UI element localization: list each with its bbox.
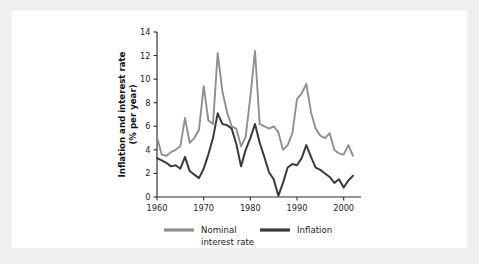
line-chart: 02468101214 19601970198019902000 Inflati… [12,11,467,248]
x-tick-label: 1980 [240,203,261,213]
y-tick-label: 2 [145,168,150,178]
x-tick-label: 1990 [287,203,308,213]
y-tick-label: 6 [145,121,150,131]
x-axis-ticks: 19601970198019902000 [147,197,355,213]
y-axis-title-line2: (% per year) [128,84,138,144]
x-tick-label: 2000 [333,203,354,213]
y-tick-label: 10 [140,74,150,84]
series-group [157,51,353,196]
figure-root: 02468101214 19601970198019902000 Inflati… [0,0,479,264]
x-tick-label: 1960 [147,203,168,213]
chart-svg: 02468101214 19601970198019902000 Inflati… [12,11,467,248]
y-tick-label: 8 [145,98,150,108]
y-tick-label: 0 [145,192,150,202]
legend-label-2: Inflation [297,225,332,235]
x-tick-label: 1970 [193,203,214,213]
y-tick-label: 12 [140,51,150,61]
figure-panel: 02468101214 19601970198019902000 Inflati… [12,11,467,248]
y-axis-title-line1: Inflation and interest rate [117,51,127,177]
series-line-nominal-interest-rate [157,51,353,156]
y-axis-title: Inflation and interest rate (% per year) [117,51,138,177]
legend-label-1-line2: interest rate [201,237,254,247]
y-axis-ticks: 02468101214 [140,27,157,202]
y-tick-label: 4 [145,145,150,155]
y-tick-label: 14 [140,27,150,37]
legend-label-1: Nominal [201,225,237,235]
chart-legend: Nominalinterest rateInflation [164,225,332,246]
